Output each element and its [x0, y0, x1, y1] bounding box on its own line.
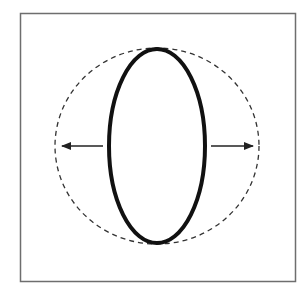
bold-ellipse [109, 49, 205, 243]
diagram-canvas [0, 0, 308, 283]
